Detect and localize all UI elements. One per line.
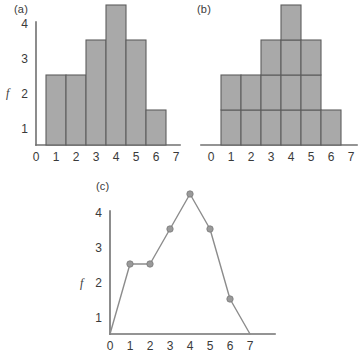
panel-a: (a) f 4 3 2 1 0 1 2 3 4 5 6 7 [0,0,180,172]
panel-c-point-6 [227,296,233,302]
panel-a-bar-4 [106,5,126,145]
panel-a-plot [0,0,180,172]
panel-c-point-2 [147,261,153,267]
panel-b-block-5-2 [301,75,321,110]
panel-b-block-5-1 [301,110,321,145]
panel-b-block-2-2 [241,75,261,110]
panel-a-bar-5 [126,40,146,145]
panel-b-block-3-1 [261,110,281,145]
panel-b-block-3-2 [261,75,281,110]
panel-a-bar-1 [46,75,66,145]
panel-b-block-4-3 [281,40,301,75]
panel-c-point-5 [207,226,213,232]
panel-b-block-1-2 [221,75,241,110]
panel-c: (c) f 4 3 2 1 0 1 2 3 4 5 6 7 [60,178,310,357]
panel-b: (b) 0 1 2 3 4 5 6 7 [180,0,357,172]
panel-b-block-3-3 [261,40,281,75]
panel-b-block-4-2 [281,75,301,110]
panel-c-plot [60,178,310,357]
panel-b-block-1-1 [221,110,241,145]
panel-b-plot [180,0,357,172]
panel-b-block-4-4 [281,5,301,40]
panel-a-bar-3 [86,40,106,145]
panel-c-point-1 [127,261,133,267]
panel-b-block-5-3 [301,40,321,75]
panel-b-block-4-1 [281,110,301,145]
panel-a-bar-2 [66,75,86,145]
panel-b-block-6-1 [321,110,341,145]
panel-a-bar-6 [146,110,166,145]
panel-b-block-2-1 [241,110,261,145]
panel-c-point-3 [167,226,173,232]
panel-c-point-4 [187,191,193,197]
